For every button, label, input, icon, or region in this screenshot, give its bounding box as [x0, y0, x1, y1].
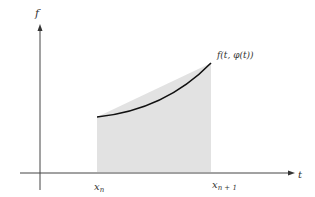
curve-label: f(t, φ(t)) [216, 50, 254, 60]
x-axis-arrow-icon [288, 171, 295, 176]
x-n-plus-1-label: xn + 1 [212, 179, 237, 192]
x-n-label: xn [94, 181, 105, 194]
trapezoid-diagram: f t f(t, φ(t)) xn xn + 1 [0, 0, 315, 197]
x-axis-label: t [298, 169, 303, 180]
y-axis-arrow-icon [38, 24, 43, 31]
y-axis-label: f [34, 7, 41, 20]
